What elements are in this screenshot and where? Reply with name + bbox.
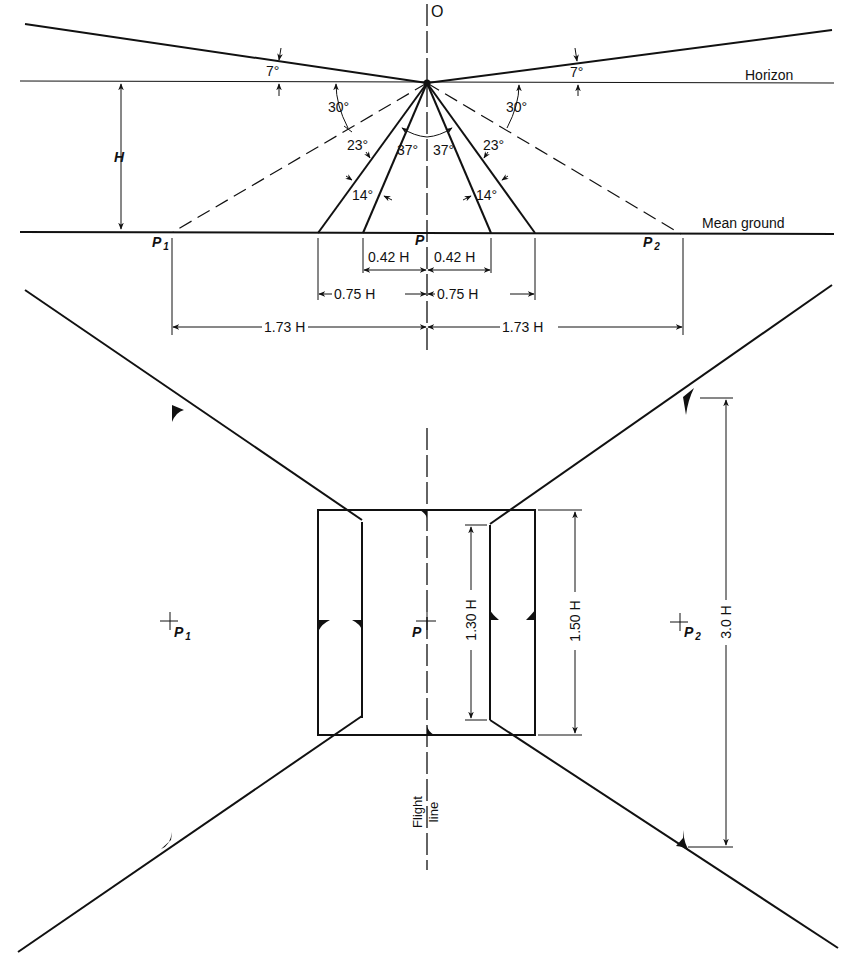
angle-23-left: 23° xyxy=(347,137,368,153)
dim-075-left: 0.75 H xyxy=(334,286,375,302)
dim-042-left: 0.42 H xyxy=(368,249,409,265)
point-p-label: P xyxy=(415,232,425,248)
dim-173-left: 1.73 H xyxy=(264,319,305,335)
dim-075-right: 0.75 H xyxy=(437,286,478,302)
height-label: H xyxy=(114,149,125,165)
dim-150: 1.50 H xyxy=(567,600,583,641)
flight-label-bottom: line xyxy=(426,802,441,822)
dashed-ray-left xyxy=(173,83,427,232)
point-p2-label: P2 xyxy=(643,234,660,252)
horizon-label: Horizon xyxy=(745,67,793,83)
point-o-dot xyxy=(424,80,431,87)
angle-arrow xyxy=(346,176,352,180)
angle-arrow xyxy=(463,196,471,200)
figure-canvas: O Horizon Mean ground H 7° 7° 30° 30° 23… xyxy=(0,0,857,967)
plan-p-label: P xyxy=(412,624,422,640)
point-o-label: O xyxy=(431,3,443,20)
ground-label: Mean ground xyxy=(702,215,785,231)
diagonal-upper-left xyxy=(25,290,362,520)
dim-300: 3.0 H xyxy=(718,605,734,638)
angle-30-right: 30° xyxy=(506,99,527,115)
point-p1-label: P1 xyxy=(152,234,169,252)
coverage-diagram: O Horizon Mean ground H 7° 7° 30° 30° 23… xyxy=(0,0,857,967)
angle-arrow xyxy=(279,48,281,60)
angle-37-left: 37° xyxy=(397,142,418,158)
angle-7-right: 7° xyxy=(570,64,583,80)
angle-14-right: 14° xyxy=(476,187,497,203)
diagonal-lower-right xyxy=(490,720,838,948)
angle-arrow xyxy=(384,196,392,200)
diagonal-lower-left xyxy=(18,716,362,952)
plan-p2-label: P2 xyxy=(684,624,701,642)
angle-23-right: 23° xyxy=(483,137,504,153)
angle-14-left: 14° xyxy=(352,187,373,203)
flight-label-top: Flight xyxy=(410,796,425,828)
dim-173-right: 1.73 H xyxy=(502,319,543,335)
angle-arrow xyxy=(502,176,508,180)
upper-ray-left xyxy=(25,24,427,83)
plan-p1-label: P1 xyxy=(174,624,191,642)
angle-37-right: 37° xyxy=(433,142,454,158)
plan-view: P1 P P2 1.30 H 1.50 H 3.0 H Flight line xyxy=(18,285,838,952)
dashed-ray-right xyxy=(427,83,681,234)
angle-30-left: 30° xyxy=(328,99,349,115)
angle-arrow xyxy=(575,48,577,61)
dim-130: 1.30 H xyxy=(463,599,479,640)
angle-7-left: 7° xyxy=(266,63,279,79)
elevation-view: O Horizon Mean ground H 7° 7° 30° 30° 23… xyxy=(20,3,834,350)
dim-042-right: 0.42 H xyxy=(434,249,475,265)
ground-line xyxy=(20,232,834,234)
